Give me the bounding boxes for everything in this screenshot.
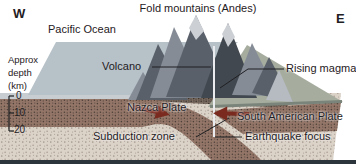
compass-east-label: E: [336, 12, 345, 25]
figure-bottom-border: [0, 160, 356, 164]
pacific-ocean-label: Pacific Ocean: [48, 23, 116, 36]
depth-axis-label-line: (km): [8, 79, 38, 92]
volcano-label: Volcano: [102, 60, 141, 73]
figure-title: Fold mountains (Andes): [118, 2, 278, 15]
depth-axis-label-line: depth: [8, 66, 38, 79]
depth-tick-10: 10: [14, 108, 25, 118]
depth-tick-0: 0: [16, 91, 22, 101]
earthquake-focus-label: Earthquake focus: [245, 130, 331, 143]
depth-axis-label-line: Approx: [8, 53, 38, 66]
nazca-plate-label: Nazca Plate: [127, 101, 186, 114]
subduction-zone-diagram: W E Fold mountains (Andes) Pacific Ocean…: [0, 0, 356, 164]
rising-magma-label: Rising magma: [286, 62, 356, 75]
south-american-plate-label: South American Plate: [237, 110, 343, 123]
subduction-zone-label: Subduction zone: [93, 130, 175, 143]
depth-axis-label: Approx depth (km): [8, 53, 38, 92]
depth-tick-20: 20: [14, 125, 25, 135]
compass-west-label: W: [13, 7, 26, 20]
